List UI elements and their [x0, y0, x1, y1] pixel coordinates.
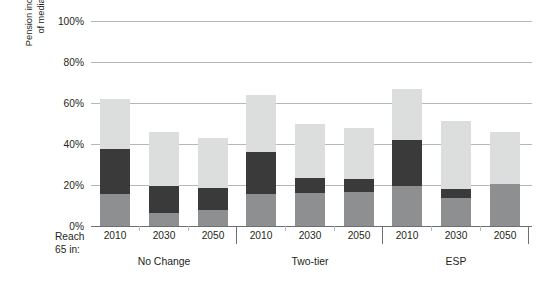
- scenario-group-labels: No Change Two-tier ESP: [91, 256, 532, 274]
- x-axis-labels: 2010 2030 2050 2010 2030 2050 2010 2030 …: [91, 228, 532, 250]
- x-label-no-change-2030: 2030: [141, 230, 187, 241]
- bar-segment-middle: [295, 178, 325, 193]
- bar-segment-top: [344, 128, 374, 179]
- y-tick-label-80: 80%: [44, 57, 84, 68]
- stacked-bar-chart: Pension income as percentage of median e…: [0, 0, 549, 287]
- y-tick-label-40: 40%: [44, 139, 84, 150]
- gridline-60: 60%: [91, 103, 532, 104]
- x-axis-caption-line-2: 65 in:: [55, 243, 95, 256]
- gridline-80: 80%: [91, 62, 532, 63]
- bar-segment-top: [295, 124, 325, 178]
- y-tick-label-0: 0%: [44, 221, 84, 232]
- x-label-no-change-2010: 2010: [92, 230, 138, 241]
- bar-segment-bottom: [295, 193, 325, 226]
- bar-segment-bottom: [344, 192, 374, 226]
- bar-segment-middle: [344, 179, 374, 192]
- bar-segment-middle: [246, 152, 276, 194]
- y-tick-label-20: 20%: [44, 180, 84, 191]
- bar-esp-2030: [441, 121, 471, 226]
- y-tick-label-60: 60%: [44, 98, 84, 109]
- bar-segment-middle: [149, 186, 179, 213]
- bar-segment-bottom: [149, 213, 179, 226]
- bar-segment-top: [198, 138, 228, 188]
- bar-segment-middle: [392, 140, 422, 186]
- bar-segment-bottom: [100, 194, 130, 226]
- plot-area: 100% 80% 60% 40% 20% 0%: [91, 21, 532, 226]
- bar-segment-bottom: [490, 184, 520, 226]
- y-axis-title-line-1: Pension income as percentage: [24, 0, 36, 46]
- bar-segment-top: [441, 121, 471, 189]
- bar-two-tier-2050: [344, 128, 374, 226]
- bar-segment-middle: [198, 188, 228, 210]
- bar-segment-bottom: [392, 186, 422, 226]
- x-label-esp-2030: 2030: [433, 230, 479, 241]
- bar-no-change-2050: [198, 138, 228, 226]
- bar-segment-top: [149, 132, 179, 186]
- x-label-esp-2010: 2010: [384, 230, 430, 241]
- bar-two-tier-2010: [246, 95, 276, 226]
- group-label-two-tier: Two-tier: [262, 256, 358, 267]
- bar-segment-middle: [441, 189, 471, 198]
- bar-segment-bottom: [246, 194, 276, 226]
- x-label-esp-2050: 2050: [482, 230, 528, 241]
- x-axis-caption-line-1: Reach: [55, 230, 95, 243]
- bar-two-tier-2030: [295, 124, 325, 227]
- group-label-no-change: No Change: [116, 256, 212, 267]
- x-label-two-tier-2010: 2010: [238, 230, 284, 241]
- bar-segment-top: [100, 99, 130, 149]
- bar-no-change-2030: [149, 132, 179, 226]
- x-axis-baseline: 0%: [91, 226, 532, 227]
- x-axis-caption: Reach 65 in:: [55, 230, 95, 256]
- x-label-two-tier-2050: 2050: [336, 230, 382, 241]
- y-tick-label-100: 100%: [44, 16, 84, 27]
- bar-segment-middle: [100, 149, 130, 194]
- group-label-esp: ESP: [408, 256, 504, 267]
- x-label-two-tier-2030: 2030: [287, 230, 333, 241]
- bar-segment-top: [392, 89, 422, 140]
- bar-segment-bottom: [198, 210, 228, 226]
- bar-segment-top: [490, 132, 520, 184]
- bar-segment-bottom: [441, 198, 471, 226]
- bar-no-change-2010: [100, 99, 130, 226]
- bar-esp-2010: [392, 89, 422, 226]
- bar-esp-2050: [490, 132, 520, 226]
- bar-segment-top: [246, 95, 276, 152]
- x-label-no-change-2050: 2050: [190, 230, 236, 241]
- gridline-100: 100%: [91, 21, 532, 22]
